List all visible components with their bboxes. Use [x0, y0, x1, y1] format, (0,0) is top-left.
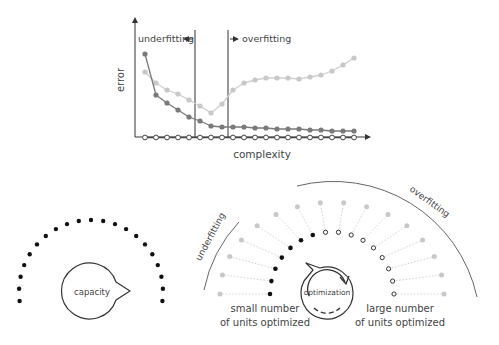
unit-dot [159, 275, 163, 279]
outer-unit-dot [227, 254, 232, 259]
figure-canvas: error complexity underfitting overfittin… [0, 0, 499, 345]
optimized-unit-dot [273, 267, 278, 272]
data-point [263, 75, 268, 80]
unit-dot [101, 219, 105, 223]
data-point [230, 124, 235, 129]
unit-dot [28, 252, 32, 256]
data-point [197, 118, 202, 123]
outer-unit-dot [295, 204, 300, 209]
x-axis-label: complexity [233, 148, 291, 160]
y-axis-label: error [115, 67, 126, 92]
unit-dot [54, 227, 58, 231]
outer-unit-dot [274, 212, 279, 217]
spoke [363, 215, 388, 241]
optimized-unit-dot [311, 233, 316, 238]
data-point [340, 128, 345, 133]
data-point [164, 100, 169, 105]
spoke [276, 215, 301, 241]
open-unit-dot [371, 246, 375, 250]
optimization-label: optimization [304, 288, 351, 297]
data-point [275, 135, 280, 140]
open-unit-dot [392, 292, 396, 296]
unit-dot [77, 219, 81, 223]
optimization-fan-diagram: underfitting overfitting optimization sm… [193, 181, 477, 328]
overfitting-annotation: overfitting [242, 33, 291, 44]
data-point [252, 77, 257, 82]
open-unit-dot [380, 256, 384, 260]
small-caption-line1: small number [231, 303, 301, 314]
data-point [263, 125, 268, 130]
outer-unit-dot [432, 254, 437, 259]
data-point [208, 123, 213, 128]
spoke [393, 275, 442, 281]
unit-dot [89, 218, 93, 222]
unit-dot [17, 299, 21, 303]
data-point [153, 80, 158, 85]
outer-unit-dot [218, 292, 223, 297]
data-point [341, 135, 346, 140]
data-point [352, 135, 357, 140]
capacity-label: capacity [74, 287, 110, 297]
optimized-unit-dot [268, 292, 273, 297]
underfitting-annotation: underfitting [138, 33, 194, 44]
spoke [297, 207, 312, 235]
figure: error complexity underfitting overfittin… [0, 0, 499, 345]
data-point [297, 135, 302, 140]
error-vs-complexity-chart: error complexity underfitting overfittin… [115, 20, 368, 160]
data-point [242, 135, 247, 140]
data-point [153, 92, 158, 97]
open-unit-dot [391, 279, 395, 283]
data-point [319, 135, 324, 140]
data-point [253, 135, 258, 140]
outer-unit-dot [341, 200, 346, 205]
data-point [286, 135, 291, 140]
open-unit-dot [323, 230, 327, 234]
small-caption-line2: of units optimized [220, 317, 310, 328]
optimized-unit-dot [288, 246, 293, 251]
light-series [142, 55, 356, 115]
open-unit-dot [336, 230, 340, 234]
data-point [142, 69, 147, 74]
data-point [208, 110, 213, 115]
spoke [374, 226, 407, 248]
optimized-unit-dot [299, 238, 304, 243]
overfitting-label: overfitting [408, 184, 452, 220]
optimized-unit-dot [280, 255, 285, 260]
spoke [351, 207, 366, 235]
data-point [143, 135, 148, 140]
data-point [329, 68, 334, 73]
spoke [320, 203, 325, 233]
data-point [351, 55, 356, 60]
data-point [186, 114, 191, 119]
data-point [230, 87, 235, 92]
open-unit-dot [361, 238, 365, 242]
data-point [186, 97, 191, 102]
outer-unit-dot [220, 272, 225, 277]
outer-unit-dot [239, 238, 244, 243]
data-point [274, 75, 279, 80]
data-point [308, 135, 313, 140]
open-unit-dot [387, 267, 391, 271]
data-point [165, 135, 170, 140]
spoke [389, 257, 435, 269]
spoke [339, 203, 344, 233]
data-point [198, 135, 203, 140]
spoke [382, 240, 422, 258]
data-point [340, 62, 345, 67]
data-point [330, 135, 335, 140]
data-point [219, 101, 224, 106]
data-point [187, 135, 192, 140]
unit-dot [18, 275, 22, 279]
unit-dot [65, 222, 69, 226]
unit-dot [113, 222, 117, 226]
outer-unit-dot [442, 292, 447, 297]
data-point [197, 103, 202, 108]
unit-dot [160, 299, 164, 303]
open-unit-dot [349, 233, 353, 237]
data-point [318, 127, 323, 132]
outer-unit-dot [404, 223, 409, 228]
data-point [307, 74, 312, 79]
data-point [142, 51, 147, 56]
data-point [231, 135, 236, 140]
data-point [264, 135, 269, 140]
